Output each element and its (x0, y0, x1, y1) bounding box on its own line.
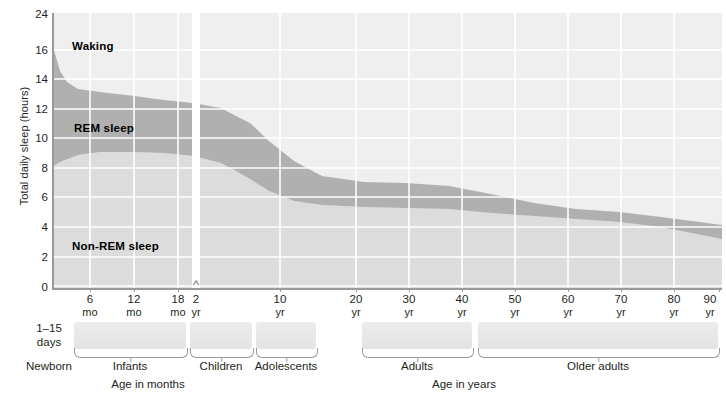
y-tick-4: 4 (22, 221, 48, 233)
x-tick-70yr: 70 yr (601, 293, 641, 319)
x-tick-mark (90, 288, 91, 292)
x-tick-mark (621, 288, 622, 292)
x-tick-60yr: 60 yr (548, 293, 588, 319)
bracket-adults (362, 348, 474, 358)
newborn-range: 1–15 days (36, 322, 62, 349)
x-tick-10yr: 10 yr (260, 293, 300, 319)
x-tick-mark (178, 288, 179, 292)
group-box-adolescents (256, 322, 316, 349)
group-label-infants: Infants (113, 360, 148, 372)
band-label-non-rem: Non-REM sleep (72, 240, 159, 252)
y-tick-14: 14 (22, 73, 48, 85)
group-box-infants (74, 322, 186, 349)
x-tick-40yr: 40 yr (442, 293, 482, 319)
x-axis-caption-months: Age in months (111, 378, 185, 390)
x-axis-caption-years: Age in years (432, 378, 496, 390)
x-tick-mark (674, 288, 675, 292)
x-tick-6mo: 6 mo (70, 293, 110, 319)
x-tick-mark (280, 288, 281, 292)
x-tick-mark (568, 288, 569, 292)
y-tick-10: 10 (22, 132, 48, 144)
group-box-children (190, 322, 252, 349)
band-label-rem: REM sleep (74, 122, 134, 134)
bracket-older (478, 348, 720, 358)
x-tick-mark (515, 288, 516, 292)
x-tick-50yr: 50 yr (495, 293, 535, 319)
x-tick-20yr: 20 yr (336, 293, 376, 319)
bracket-children (190, 348, 254, 358)
y-tick-12: 12 (22, 103, 48, 115)
y-tick-16: 16 (22, 44, 48, 56)
axis-break-gap (192, 13, 200, 288)
group-label-children: Children (200, 360, 243, 372)
group-label-adolescents: Adolescents (255, 360, 318, 372)
x-tick-80yr: 80 yr (654, 293, 694, 319)
y-tick-6: 6 (22, 191, 48, 203)
y-tick-0: 0 (22, 281, 48, 293)
group-box-older (478, 322, 718, 349)
x-tick-30yr: 30 yr (389, 293, 429, 319)
x-tick-90yr: 90 yr (690, 293, 726, 319)
x-tick-mark (462, 288, 463, 292)
sleep-chart-figure: Total daily sleep (hours) 24 16 14 12 10… (0, 0, 726, 394)
x-tick-12mo: 12 mo (114, 293, 154, 319)
y-tick-8: 8 (22, 162, 48, 174)
y-tick-24: 24 (22, 8, 48, 20)
band-label-waking: Waking (72, 40, 114, 52)
group-label-older: Older adults (567, 360, 629, 372)
group-box-adults (362, 322, 472, 349)
axis-break-symbol: ^ (193, 280, 199, 290)
x-tick-mark (134, 288, 135, 292)
bracket-infants (74, 348, 188, 358)
group-label-adults: Adults (401, 360, 433, 372)
group-label-newborn: Newborn (26, 360, 72, 372)
x-tick-2yr: 2 yr (176, 293, 216, 319)
x-tick-mark (409, 288, 410, 292)
x-tick-mark (719, 288, 720, 292)
x-tick-mark (356, 288, 357, 292)
y-tick-2: 2 (22, 251, 48, 263)
bracket-adolescents (256, 348, 318, 358)
